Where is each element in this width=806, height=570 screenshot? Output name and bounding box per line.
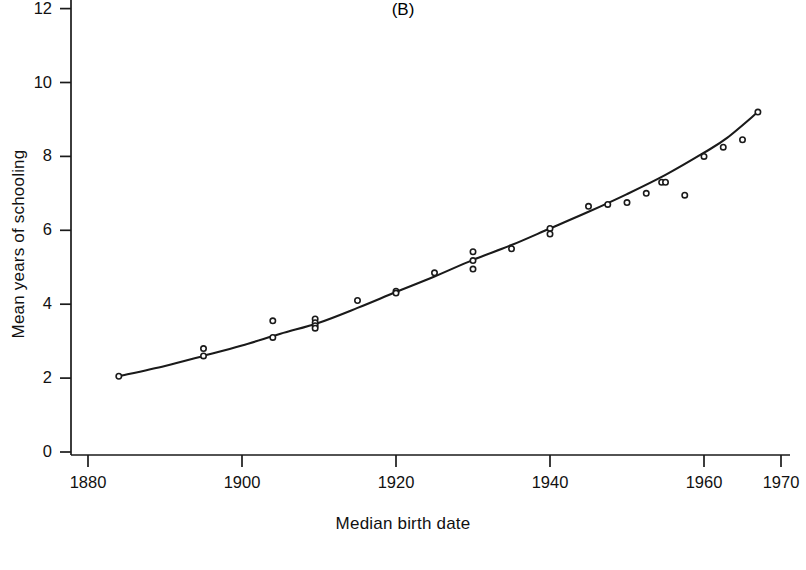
- y-axis-label-wrapper: Mean years of schooling: [9, 124, 31, 364]
- data-point-marker: [721, 144, 726, 149]
- data-point-marker: [201, 353, 206, 358]
- data-point-marker: [470, 258, 475, 263]
- data-point-marker: [547, 231, 552, 236]
- x-tick-label: 1940: [520, 474, 580, 491]
- tick-marks-group: [60, 9, 781, 467]
- data-point-marker: [355, 298, 360, 303]
- data-point-marker: [586, 204, 591, 209]
- data-point-marker: [116, 374, 121, 379]
- y-tick-label: 12: [8, 0, 52, 16]
- x-tick-label: 1880: [58, 474, 118, 491]
- y-tick-label: 10: [8, 74, 52, 91]
- data-point-marker: [270, 335, 275, 340]
- x-tick-label: 1970: [751, 474, 806, 491]
- data-point-marker: [740, 137, 745, 142]
- x-axis-label: Median birth date: [0, 514, 806, 534]
- data-point-marker: [547, 226, 552, 231]
- data-point-marker: [624, 200, 629, 205]
- data-point-marker: [663, 180, 668, 185]
- y-tick-label: 2: [8, 369, 52, 386]
- data-points-group: [116, 109, 761, 379]
- fit-curve-line: [119, 112, 758, 376]
- data-point-marker: [312, 326, 317, 331]
- x-tick-label: 1900: [212, 474, 272, 491]
- data-point-marker: [755, 109, 760, 114]
- y-tick-label: 0: [8, 443, 52, 460]
- y-axis-label: Mean years of schooling: [9, 124, 29, 364]
- data-point-marker: [470, 266, 475, 271]
- data-point-marker: [701, 154, 706, 159]
- data-point-marker: [432, 270, 437, 275]
- data-point-marker: [509, 246, 514, 251]
- data-point-marker: [270, 318, 275, 323]
- chart-figure: 024681012 188019001920194019601970 Mean …: [0, 0, 806, 570]
- data-point-marker: [605, 202, 610, 207]
- data-point-marker: [682, 193, 687, 198]
- data-point-marker: [393, 290, 398, 295]
- axes-group: [71, 0, 790, 455]
- x-tick-label: 1920: [366, 474, 426, 491]
- data-point-marker: [201, 346, 206, 351]
- data-point-marker: [470, 249, 475, 254]
- data-point-marker: [644, 191, 649, 196]
- x-tick-label: 1960: [674, 474, 734, 491]
